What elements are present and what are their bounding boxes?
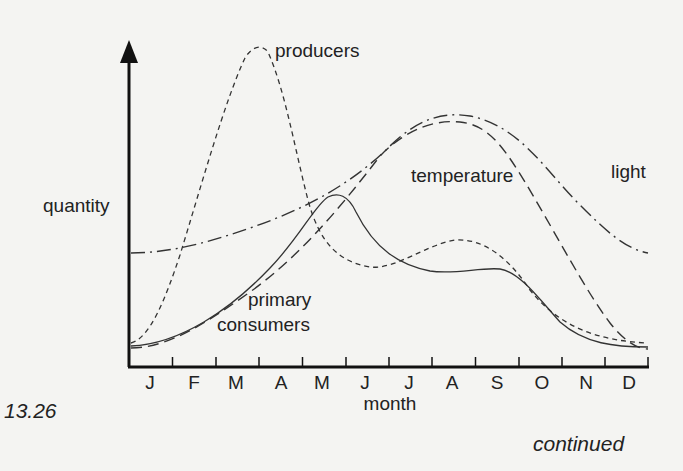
x-axis-label: month xyxy=(364,393,417,414)
series-temperature-line xyxy=(131,122,648,349)
tick-label: M xyxy=(314,372,330,393)
tick-label: A xyxy=(446,372,459,393)
label-consumers: consumers xyxy=(217,314,310,335)
series-light-line xyxy=(131,115,648,253)
tick-label: O xyxy=(535,372,550,393)
tick-label: D xyxy=(622,372,636,393)
continued-note: continued xyxy=(533,432,624,456)
tick-label: M xyxy=(228,372,244,393)
tick-label: J xyxy=(145,372,155,393)
label-primary: primary xyxy=(248,289,312,310)
label-producers: producers xyxy=(275,40,360,61)
label-temperature: temperature xyxy=(411,165,513,186)
seasonal-quantity-chart: producers temperature light primary cons… xyxy=(0,0,683,471)
y-axis-arrow-icon xyxy=(120,40,138,63)
tick-label: F xyxy=(188,372,200,393)
tick-label: N xyxy=(579,372,593,393)
y-axis-label: quantity xyxy=(43,195,110,216)
tick-label: J xyxy=(404,372,414,393)
tick-label: J xyxy=(360,372,370,393)
x-axis-tick-labels: J F M A M J J A S O N D xyxy=(145,372,636,393)
tick-label: S xyxy=(491,372,504,393)
tick-label: A xyxy=(275,372,288,393)
figure-number: 13.26 xyxy=(4,399,57,423)
label-light: light xyxy=(611,161,647,182)
